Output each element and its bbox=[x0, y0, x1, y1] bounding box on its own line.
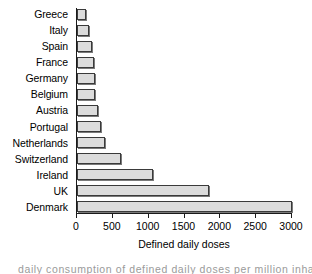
x-axis-title: Defined daily doses bbox=[76, 238, 292, 250]
y-axis-label-italy: Italy bbox=[0, 24, 72, 37]
x-axis-ticks bbox=[76, 214, 292, 219]
y-axis-category-labels: Greece Italy Spain France Germany Belgiu… bbox=[0, 8, 72, 214]
x-axis-tick-label: 1500 bbox=[172, 220, 195, 232]
bar-row bbox=[77, 184, 292, 197]
bar-row bbox=[77, 24, 292, 37]
bar-row bbox=[77, 88, 292, 101]
bar-row bbox=[77, 120, 292, 133]
y-axis-label-austria: Austria bbox=[0, 104, 72, 117]
bar-row bbox=[77, 104, 292, 117]
y-axis-label-belgium: Belgium bbox=[0, 88, 72, 101]
y-axis-label-netherlands: Netherlands bbox=[0, 137, 72, 150]
bar-belgium bbox=[77, 89, 95, 100]
x-axis-tick bbox=[184, 214, 185, 218]
cropped-caption-sliver: daily consumption of defined daily doses… bbox=[0, 265, 312, 274]
bar-netherlands bbox=[77, 137, 105, 148]
bar-spain bbox=[77, 41, 92, 52]
y-axis-label-ireland: Ireland bbox=[0, 169, 72, 182]
x-axis-tick-label: 1000 bbox=[136, 220, 159, 232]
y-axis-label-denmark: Denmark bbox=[0, 201, 72, 214]
x-axis-tick bbox=[219, 214, 220, 218]
x-axis-tick-label: 0 bbox=[73, 220, 79, 232]
bar-row bbox=[77, 40, 292, 53]
bar-germany bbox=[77, 73, 95, 84]
x-axis-tick bbox=[148, 214, 149, 218]
y-axis-label-spain: Spain bbox=[0, 40, 72, 53]
bar-row bbox=[77, 152, 292, 165]
bar-italy bbox=[77, 25, 89, 36]
bar-row bbox=[77, 72, 292, 85]
bar-row bbox=[77, 168, 292, 181]
x-axis-tick-label: 500 bbox=[103, 220, 121, 232]
bar-row bbox=[77, 200, 292, 213]
x-axis-tick-labels: 050010001500200025003000 bbox=[0, 220, 312, 234]
x-axis-tick bbox=[112, 214, 113, 218]
bar-greece bbox=[77, 9, 86, 20]
y-axis-label-greece: Greece bbox=[0, 8, 72, 21]
plot-area bbox=[76, 8, 292, 214]
bar-denmark bbox=[77, 201, 292, 212]
bar-chart-figure: Greece Italy Spain France Germany Belgiu… bbox=[0, 0, 312, 274]
x-axis-tick-label: 2500 bbox=[243, 220, 266, 232]
x-axis-tick-label: 2000 bbox=[208, 220, 231, 232]
bar-row bbox=[77, 56, 292, 69]
x-axis-tick-label: 3000 bbox=[279, 220, 302, 232]
y-axis-label-france: France bbox=[0, 56, 72, 69]
bar-row bbox=[77, 136, 292, 149]
bar-series bbox=[77, 8, 292, 213]
bar-ireland bbox=[77, 169, 153, 180]
bar-france bbox=[77, 57, 94, 68]
bar-switzerland bbox=[77, 153, 121, 164]
bar-portugal bbox=[77, 121, 101, 132]
cropped-caption-text: daily consumption of defined daily doses… bbox=[18, 265, 312, 274]
x-axis-tick bbox=[76, 214, 77, 218]
bar-row bbox=[77, 8, 292, 21]
y-axis-label-germany: Germany bbox=[0, 72, 72, 85]
bar-austria bbox=[77, 105, 98, 116]
y-axis-label-uk: UK bbox=[0, 185, 72, 198]
x-axis-tick bbox=[255, 214, 256, 218]
x-axis-tick bbox=[291, 214, 292, 218]
y-axis-label-portugal: Portugal bbox=[0, 121, 72, 134]
bar-uk bbox=[77, 185, 209, 196]
y-axis-label-switzerland: Switzerland bbox=[0, 153, 72, 166]
